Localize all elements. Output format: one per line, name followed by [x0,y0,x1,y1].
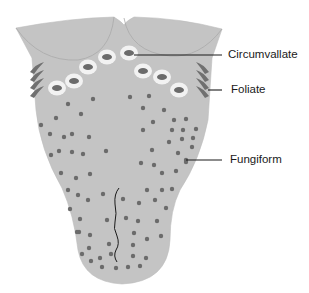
tongue-body [16,17,222,284]
label-fungiform: Fungiform [230,154,282,166]
tongue-diagram [0,0,309,293]
label-circumvallate: Circumvallate [228,49,298,61]
label-foliate: Foliate [231,84,266,96]
